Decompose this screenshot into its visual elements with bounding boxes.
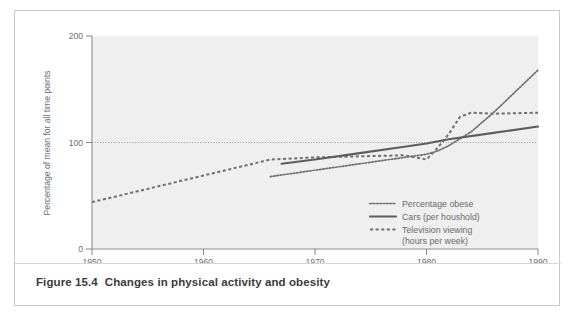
- y-tick-label-0: 0: [78, 244, 83, 254]
- chart-svg: 200 100 0 Percentage of mean for all tim…: [15, 11, 561, 263]
- legend-label-percentage-obese: Percentage obese: [402, 199, 474, 209]
- legend-label-television-viewing: Television viewing: [402, 225, 473, 235]
- figure-caption: Figure 15.4Changes in physical activity …: [36, 276, 330, 288]
- chart-plot-area: 200 100 0 Percentage of mean for all tim…: [15, 11, 561, 263]
- legend-label-cars: Cars (per houshold): [402, 212, 480, 222]
- y-axis-title: Percentage of mean for all time points: [42, 71, 52, 216]
- figure-caption-text: Changes in physical activity and obesity: [105, 276, 330, 288]
- y-tick-label-100: 100: [69, 138, 84, 148]
- legend-label-television-viewing-units: (hours per week): [402, 236, 468, 246]
- y-tick-label-200: 200: [69, 31, 84, 41]
- figure-caption-bar: Figure 15.4Changes in physical activity …: [15, 263, 561, 306]
- figure-caption-number: Figure 15.4: [36, 276, 98, 288]
- figure-container: 200 100 0 Percentage of mean for all tim…: [14, 10, 560, 306]
